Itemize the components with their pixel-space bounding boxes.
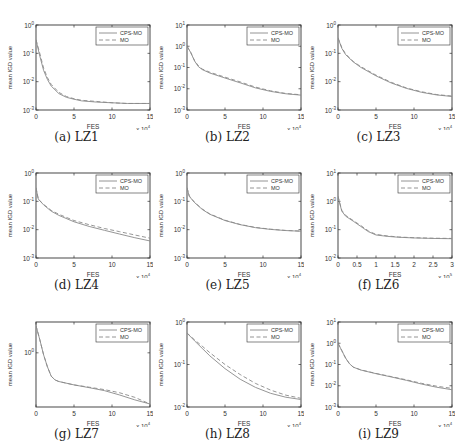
legend-entry: CPS-MO — [422, 178, 445, 184]
subplot-caption: (d) LZ4 — [0, 278, 153, 292]
figure-grid: 05101510010-110-210-3FESx 104mean IGD va… — [0, 0, 459, 448]
y-tick-label: 10-2 — [325, 381, 337, 389]
y-tick-label: 10-3 — [23, 106, 35, 114]
legend-entry: MO — [271, 185, 281, 191]
x-tick-label: 0 — [34, 261, 38, 268]
chart-svg: 05101510010-110-210-3FESx 104mean IGD va… — [302, 0, 455, 130]
y-tick-label: 101 — [175, 21, 185, 29]
subplot-lz4: 05101510010-110-210-3FESx 104mean IGD va… — [0, 148, 153, 297]
legend-entry: MO — [120, 37, 130, 43]
subplot-caption: (g) LZ7 — [0, 427, 153, 441]
subplot-lz6: 00.511.522.5310110010-110-2FESx 105mean … — [302, 148, 455, 297]
subplot-caption: (c) LZ3 — [302, 130, 455, 144]
x-tick-label: 5 — [223, 410, 227, 417]
y-tick-label: 100 — [326, 339, 336, 347]
x-tick-label: 0 — [185, 113, 189, 120]
subplot-lz1: 05101510010-110-210-3FESx 104mean IGD va… — [0, 0, 153, 149]
x-axis-label: FES — [87, 123, 100, 130]
x-tick-label: 3 — [450, 261, 454, 268]
x-axis-label: FES — [87, 271, 100, 278]
x-tick-label: 1 — [374, 261, 378, 268]
chart-svg: 05101510110010-110-210-3FESx 104mean IGD… — [151, 0, 304, 130]
legend-entry: CPS-MO — [120, 178, 143, 184]
legend-entry: MO — [422, 334, 432, 340]
y-tick-label: 10-2 — [23, 77, 35, 85]
y-tick-label: 101 — [326, 169, 336, 177]
y-tick-label: 10-2 — [325, 254, 337, 262]
y-tick-label: 10-1 — [325, 49, 337, 57]
x-tick-label: 10 — [259, 261, 267, 268]
y-tick-label: 100 — [24, 169, 34, 177]
legend-entry: CPS-MO — [271, 30, 294, 36]
subplot-lz8: 05101510010-110-2FESx 104mean IGD valueC… — [151, 297, 304, 446]
x-axis-label: FES — [238, 271, 251, 278]
y-axis-label: mean IGD value — [309, 342, 315, 386]
legend-entry: MO — [120, 334, 130, 340]
y-tick-label: 100 — [175, 318, 185, 326]
legend-entry: CPS-MO — [422, 30, 445, 36]
y-tick-label: 10-2 — [174, 84, 186, 92]
chart-svg: 05101510010-110-210-3FESx 104mean IGD va… — [0, 0, 153, 130]
x-tick-label: 0 — [185, 410, 189, 417]
subplot-caption: (f) LZ6 — [302, 278, 455, 292]
y-tick-label: 10-2 — [23, 225, 35, 233]
x-tick-label: 10 — [410, 113, 418, 120]
y-axis-label: mean IGD value — [158, 193, 164, 237]
x-tick-label: 0 — [336, 410, 340, 417]
y-tick-label: 101 — [326, 318, 336, 326]
x-tick-label: 5 — [374, 113, 378, 120]
x-tick-label: 10 — [259, 113, 267, 120]
x-tick-label: 15 — [448, 410, 455, 417]
x-tick-label: 10 — [259, 410, 267, 417]
y-tick-label: 10-2 — [174, 225, 186, 233]
subplot-lz7: 051015100FESx 104mean IGD valueCPS-MOMO(… — [0, 297, 153, 446]
y-tick-label: 10-1 — [174, 63, 186, 71]
x-tick-label: 0 — [34, 113, 38, 120]
x-tick-label: 2.5 — [428, 261, 437, 268]
y-axis-label: mean IGD value — [158, 342, 164, 386]
chart-svg: 05101510010-110-210-3FESx 104mean IGD va… — [0, 148, 153, 278]
x-tick-label: 5 — [72, 410, 76, 417]
y-tick-label: 10-1 — [174, 360, 186, 368]
y-tick-label: 10-3 — [174, 254, 186, 262]
y-tick-label: 10-1 — [325, 360, 337, 368]
x-axis-label: FES — [238, 123, 251, 130]
x-tick-label: 10 — [108, 261, 116, 268]
y-tick-label: 10-3 — [23, 254, 35, 262]
y-axis-label: mean IGD value — [309, 45, 315, 89]
y-axis-label: mean IGD value — [7, 342, 13, 386]
y-tick-label: 100 — [24, 21, 34, 29]
y-tick-label: 100 — [326, 197, 336, 205]
chart-svg: 05101510110010-110-210-3FESx 104mean IGD… — [302, 297, 455, 427]
y-tick-label: 10-3 — [325, 403, 337, 411]
x-tick-label: 10 — [108, 113, 116, 120]
y-tick-label: 100 — [175, 42, 185, 50]
x-tick-label: 10 — [410, 410, 418, 417]
x-tick-label: 1.5 — [390, 261, 399, 268]
x-tick-label: 2 — [412, 261, 416, 268]
subplot-lz9: 05101510110010-110-210-3FESx 104mean IGD… — [302, 297, 455, 446]
x-tick-label: 0 — [336, 113, 340, 120]
subplot-caption: (i) LZ9 — [302, 427, 455, 441]
legend-entry: MO — [120, 185, 130, 191]
x-tick-label: 0.5 — [352, 261, 361, 268]
y-tick-label: 10-2 — [174, 403, 186, 411]
subplot-caption: (b) LZ2 — [151, 130, 304, 144]
y-tick-label: 10-1 — [174, 197, 186, 205]
y-tick-label: 100 — [326, 21, 336, 29]
chart-svg: 051015100FESx 104mean IGD valueCPS-MOMO — [0, 297, 153, 427]
y-tick-label: 100 — [175, 169, 185, 177]
legend-entry: CPS-MO — [120, 30, 143, 36]
x-tick-label: 5 — [223, 261, 227, 268]
legend-entry: MO — [271, 334, 281, 340]
y-axis-label: mean IGD value — [7, 45, 13, 89]
y-tick-label: 10-1 — [23, 49, 35, 57]
y-tick-label: 10-1 — [23, 197, 35, 205]
x-tick-label: 5 — [223, 113, 227, 120]
x-tick-label: 0 — [336, 261, 340, 268]
legend-entry: MO — [422, 37, 432, 43]
x-tick-label: 5 — [72, 261, 76, 268]
chart-svg: 05101510010-110-210-3FESx 104mean IGD va… — [151, 148, 304, 278]
y-axis-label: mean IGD value — [309, 193, 315, 237]
subplot-caption: (h) LZ8 — [151, 427, 304, 441]
